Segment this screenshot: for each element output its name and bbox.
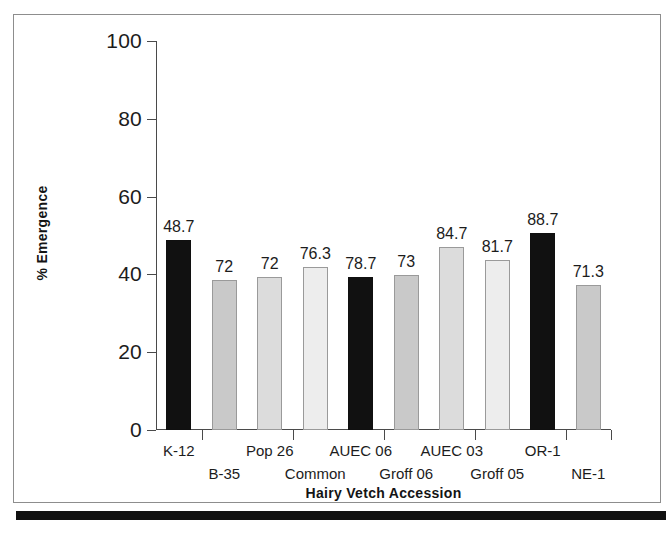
- x-axis-category-label: B-35: [179, 466, 269, 482]
- y-axis-tick: [147, 41, 156, 42]
- bar-rect: [348, 277, 373, 430]
- x-axis-tick: [566, 430, 567, 440]
- bar-rect: [485, 260, 510, 430]
- y-axis-tick: [147, 119, 156, 120]
- y-axis-tick: [147, 274, 156, 275]
- bars-layer: 48.7727276.378.77384.781.788.771.3: [156, 41, 611, 430]
- bar-auec-03[interactable]: 84.7: [439, 41, 464, 430]
- x-axis-category-label: OR-1: [498, 443, 588, 459]
- y-axis-tick-label: 20: [22, 341, 142, 362]
- x-axis-category-label: NE-1: [543, 466, 633, 482]
- x-axis-tick: [384, 430, 385, 440]
- x-axis-category-label: Groff 05: [452, 466, 542, 482]
- y-axis-tick: [147, 352, 156, 353]
- bar-rect: [394, 275, 419, 430]
- bar-value-label: 73: [372, 254, 441, 270]
- bar-or-1[interactable]: 88.7: [530, 41, 555, 430]
- bar-pop-26[interactable]: 72: [257, 41, 282, 430]
- x-axis-tick: [475, 430, 476, 440]
- y-axis-tick-label: 100: [22, 30, 142, 51]
- bar-rect: [439, 247, 464, 430]
- y-axis-tick-label: 0: [22, 419, 142, 440]
- bar-value-label: 81.7: [463, 239, 532, 255]
- x-axis-category-label: AUEC 06: [316, 443, 406, 459]
- bar-rect: [257, 277, 282, 430]
- bar-rect: [576, 285, 601, 430]
- bar-common[interactable]: 76.3: [303, 41, 328, 430]
- bottom-rule: [16, 511, 666, 520]
- y-axis-title: % Emergence: [34, 143, 50, 323]
- bar-rect: [212, 280, 237, 430]
- bar-groff-06[interactable]: 73: [394, 41, 419, 430]
- x-axis-title: Hairy Vetch Accession: [156, 485, 611, 501]
- bar-auec-06[interactable]: 78.7: [348, 41, 373, 430]
- x-axis-category-label: K-12: [134, 443, 224, 459]
- x-axis-category-label: AUEC 03: [407, 443, 497, 459]
- bar-value-label: 88.7: [508, 212, 577, 228]
- x-axis-tick: [202, 430, 203, 440]
- bar-rect: [303, 267, 328, 430]
- y-axis-tick-label: 80: [22, 108, 142, 129]
- bar-rect: [530, 233, 555, 430]
- x-axis-category-label: Pop 26: [225, 443, 315, 459]
- x-axis-tick: [293, 430, 294, 440]
- y-axis-tick: [147, 430, 156, 431]
- bar-value-label: 48.7: [144, 219, 213, 235]
- bar-rect: [166, 240, 191, 430]
- bar-k-12[interactable]: 48.7: [166, 41, 191, 430]
- plot-area: 020406080100 % Emergence 48.7727276.378.…: [14, 15, 662, 504]
- bar-groff-05[interactable]: 81.7: [485, 41, 510, 430]
- y-axis-tick: [147, 197, 156, 198]
- x-axis-category-label: Common: [270, 466, 360, 482]
- figure-frame: 020406080100 % Emergence 48.7727276.378.…: [13, 14, 661, 503]
- x-axis-category-label: Groff 06: [361, 466, 451, 482]
- bar-ne-1[interactable]: 71.3: [576, 41, 601, 430]
- x-axis-end-tick: [611, 430, 612, 440]
- bar-value-label: 71.3: [554, 264, 623, 280]
- bar-b-35[interactable]: 72: [212, 41, 237, 430]
